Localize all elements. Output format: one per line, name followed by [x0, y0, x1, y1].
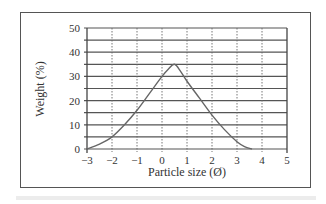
chart-svg: 01020304050−3−2−1012345 Particle size (Ø… — [0, 0, 326, 204]
x-tick-label: −2 — [106, 154, 118, 166]
y-axis-title: Weight (%) — [33, 61, 47, 116]
y-tick-label: 50 — [69, 22, 81, 34]
x-tick-label: 4 — [259, 154, 265, 166]
y-tick-label: 30 — [69, 70, 81, 82]
tick-labels: 01020304050−3−2−1012345 — [69, 22, 290, 166]
x-tick-label: −1 — [131, 154, 143, 166]
y-tick-label: 0 — [75, 143, 81, 155]
x-axis-title: Particle size (Ø) — [148, 165, 226, 179]
x-tick-label: 3 — [234, 154, 240, 166]
y-tick-label: 40 — [69, 46, 81, 58]
y-tick-label: 10 — [69, 119, 81, 131]
x-tick-label: −3 — [81, 154, 93, 166]
y-tick-label: 20 — [69, 95, 81, 107]
x-tick-label: 5 — [284, 154, 290, 166]
